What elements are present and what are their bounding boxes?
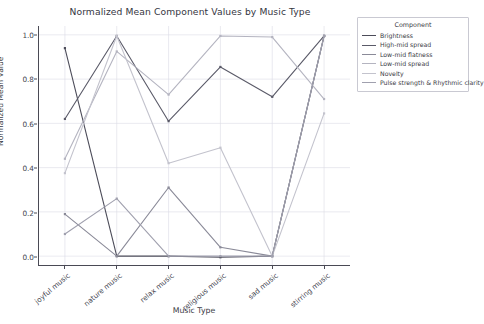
data-point-marker (167, 120, 169, 122)
legend-item[interactable]: Brightness (362, 31, 464, 40)
data-point-marker (219, 147, 221, 149)
legend-swatch-icon (362, 63, 376, 64)
data-point-marker (271, 36, 273, 38)
chart-title: Normalized Mean Component Values by Musi… (0, 6, 380, 17)
data-point-marker (219, 246, 221, 248)
x-tick-label: joyful music (33, 271, 72, 306)
legend-swatch-icon (362, 35, 376, 36)
plot-area (38, 26, 350, 266)
legend-item-label: High-mid spread (380, 40, 431, 49)
y-tick-label: 0.2 (22, 208, 34, 217)
legend: Component BrightnessHigh-mid spreadLow-m… (357, 17, 469, 92)
data-point-marker (167, 94, 169, 96)
legend-item-label: Low-mid spread (380, 59, 429, 68)
legend-item[interactable]: Novelty (362, 69, 464, 78)
y-tick-label: 0.0 (22, 253, 34, 262)
y-tick-label: 0.8 (22, 75, 34, 84)
y-tick-label: 0.4 (22, 164, 34, 173)
x-tick-label: nature music (82, 271, 124, 308)
y-tick-mark (34, 168, 37, 169)
legend-title: Component (362, 21, 464, 29)
data-point-marker (116, 50, 118, 52)
data-point-marker (64, 47, 66, 49)
legend-item-label: Brightness (380, 31, 413, 40)
legend-item[interactable]: Low-mid spread (362, 59, 464, 68)
legend-item-label: Low-mid flatness (380, 50, 432, 59)
data-point-marker (167, 186, 169, 188)
data-point-marker (219, 35, 221, 37)
x-tick-mark (116, 266, 117, 269)
y-tick-mark (34, 34, 37, 35)
x-tick-label: sad music (246, 271, 280, 301)
data-point-marker (64, 118, 66, 120)
data-point-marker (219, 66, 221, 68)
x-tick-mark (272, 266, 273, 269)
y-tick-label: 0.6 (22, 119, 34, 128)
legend-item[interactable]: Pulse strength & Rhythmic clarity (362, 78, 464, 87)
legend-item-label: Novelty (380, 69, 404, 78)
series-line (65, 36, 324, 159)
data-point-marker (64, 172, 66, 174)
x-axis-title: Music Type (38, 306, 350, 315)
legend-item[interactable]: Low-mid flatness (362, 50, 464, 59)
x-tick-label: stirring music (288, 271, 331, 309)
data-point-marker (219, 255, 221, 257)
legend-item-label: Pulse strength & Rhythmic clarity (380, 78, 484, 87)
x-tick-mark (220, 266, 221, 269)
data-point-marker (64, 213, 66, 215)
y-tick-mark (34, 123, 37, 124)
data-point-marker (271, 255, 273, 257)
y-axis-ticks: 0.00.20.40.60.81.0 (0, 26, 34, 266)
x-tick-label: relax music (138, 271, 176, 305)
data-point-marker (64, 158, 66, 160)
data-point-marker (323, 35, 325, 37)
data-point-marker (167, 255, 169, 257)
legend-swatch-icon (362, 73, 376, 74)
y-tick-mark (34, 79, 37, 80)
legend-swatch-icon (362, 54, 376, 55)
legend-swatch-icon (362, 45, 376, 46)
y-tick-mark (34, 212, 37, 213)
legend-swatch-icon (362, 82, 376, 83)
data-point-marker (271, 96, 273, 98)
data-point-marker (64, 233, 66, 235)
y-tick-mark (34, 257, 37, 258)
legend-item[interactable]: High-mid spread (362, 40, 464, 49)
data-series-layer (39, 26, 350, 265)
data-point-marker (116, 255, 118, 257)
y-tick-label: 1.0 (22, 30, 34, 39)
data-point-marker (323, 112, 325, 114)
data-point-marker (323, 98, 325, 100)
x-tick-mark (64, 266, 65, 269)
data-point-marker (116, 198, 118, 200)
x-tick-mark (168, 266, 169, 269)
data-point-marker (116, 35, 118, 37)
data-point-marker (167, 162, 169, 164)
legend-items: BrightnessHigh-mid spreadLow-mid flatnes… (362, 31, 464, 87)
series-line (65, 36, 324, 256)
x-tick-mark (324, 266, 325, 269)
